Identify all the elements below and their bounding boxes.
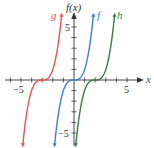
legend-label-h: h (117, 9, 123, 21)
curve-arrow-icon (53, 143, 57, 147)
curve-arrow-icon (21, 143, 25, 147)
legend-label-g: g (51, 9, 57, 21)
x-axis-label: x (145, 73, 151, 85)
curve-arrow-icon (60, 13, 64, 17)
x-axis-arrow-icon (137, 77, 144, 82)
cubic-functions-chart: f(x) x −5 5 5 −5 g f h (0, 0, 154, 148)
y-tick-label-5: 5 (65, 22, 70, 33)
legend-label-f: f (97, 9, 102, 21)
x-tick-label-5: 5 (124, 84, 129, 95)
curve-arrow-icon (91, 13, 95, 17)
y-axis-arrow-icon (71, 12, 76, 19)
y-axis (71, 12, 76, 146)
y-tick-label-neg5: −5 (58, 128, 69, 139)
curve-arrow-icon (113, 13, 117, 17)
y-axis-label: f(x) (66, 1, 82, 14)
x-tick-label-neg5: −5 (13, 84, 24, 95)
